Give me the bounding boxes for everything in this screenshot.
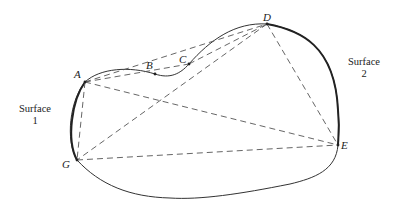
surface-1-label: 1	[32, 115, 37, 126]
point-label-C: C	[179, 53, 187, 65]
dashed-string-lines	[77, 24, 338, 160]
dashed-line-DE	[267, 24, 338, 145]
point-B	[154, 73, 157, 76]
enclosure-diagram: ABCDEG Surface1Surface2	[0, 0, 402, 200]
dashed-line-AE	[85, 82, 338, 145]
point-E	[337, 144, 340, 147]
point-A	[84, 81, 87, 84]
point-labels: ABCDEG	[62, 11, 348, 170]
enclosure-outline	[70, 24, 339, 199]
point-G	[76, 159, 79, 162]
dashed-line-AD	[85, 24, 267, 82]
dashed-line-DG	[77, 24, 267, 160]
point-label-B: B	[146, 59, 153, 71]
point-label-D: D	[262, 11, 271, 23]
dashed-line-CD	[189, 24, 267, 64]
point-C	[188, 63, 191, 66]
surface-2-label: 2	[361, 68, 366, 79]
point-D	[266, 23, 269, 26]
point-markers	[76, 23, 340, 162]
diagram-svg: ABCDEG Surface1Surface2	[0, 0, 402, 200]
dashed-line-GE	[77, 145, 338, 160]
surface-2-label: Surface	[348, 56, 380, 67]
point-label-G: G	[62, 158, 70, 170]
point-label-A: A	[73, 68, 81, 80]
surface-1-label: Surface	[19, 103, 51, 114]
point-label-E: E	[340, 139, 348, 151]
surface-1-boundary	[71, 82, 85, 160]
